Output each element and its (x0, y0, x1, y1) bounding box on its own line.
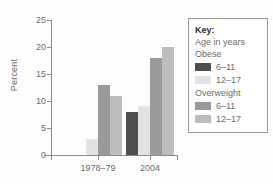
x-axis-tick-mark (150, 155, 151, 160)
bar (126, 112, 138, 155)
y-axis-tick-mark (47, 47, 51, 48)
chart-legend: Key: Age in years Obese6–1112–17Overweig… (188, 18, 268, 133)
bar (138, 106, 150, 155)
y-axis-tick-label: 20 (24, 43, 46, 52)
y-axis-tick-mark (47, 128, 51, 129)
legend-entry-label: 12–17 (216, 74, 241, 86)
bar (110, 96, 122, 155)
bar (98, 85, 110, 155)
x-axis-end-tick (177, 155, 178, 160)
x-axis-tick-label: 2004 (125, 163, 175, 173)
legend-subtitle: Age in years (195, 36, 261, 48)
legend-entry-label: 12–17 (216, 113, 241, 125)
x-axis-tick-mark (98, 155, 99, 160)
legend-swatch-icon (195, 102, 211, 110)
legend-swatch-icon (195, 63, 211, 71)
bar (86, 139, 98, 155)
legend-group-heading: Overweight (195, 87, 261, 99)
legend-groups: Obese6–1112–17Overweight6–1112–17 (195, 48, 261, 125)
y-axis-tick-label: 15 (24, 70, 46, 79)
y-axis-tick-label: 0 (24, 151, 46, 160)
legend-entry-label: 6–11 (216, 61, 235, 73)
legend-group-heading: Obese (195, 48, 261, 60)
legend-title: Key: (195, 24, 261, 36)
y-axis-tick-label: 10 (24, 97, 46, 106)
x-axis-tick-label: 1978–79 (73, 163, 123, 173)
bar (162, 47, 174, 155)
y-axis-tick-mark (47, 101, 51, 102)
legend-entry: 12–17 (195, 74, 261, 86)
legend-swatch-icon (195, 115, 211, 123)
y-axis-tick-labels: 0510152025 (24, 15, 46, 160)
x-axis-line (44, 155, 178, 156)
legend-entry: 6–11 (195, 100, 261, 112)
bar-chart-figure: Percent 0510152025 Key: Age in years Obe… (0, 0, 273, 184)
plot-area (52, 20, 178, 155)
y-axis-tick-label: 25 (24, 16, 46, 25)
legend-swatch-icon (195, 76, 211, 84)
legend-entry: 6–11 (195, 61, 261, 73)
y-axis-tick-mark (47, 74, 51, 75)
bar-group (126, 20, 174, 155)
bar (150, 58, 162, 155)
y-axis-title: Percent (9, 45, 19, 105)
y-axis-tick-label: 5 (24, 124, 46, 133)
legend-entry-label: 6–11 (216, 100, 235, 112)
bar-group (74, 20, 122, 155)
x-axis-origin-tick (51, 155, 52, 160)
y-axis-tick-mark (47, 20, 51, 21)
legend-entry: 12–17 (195, 113, 261, 125)
